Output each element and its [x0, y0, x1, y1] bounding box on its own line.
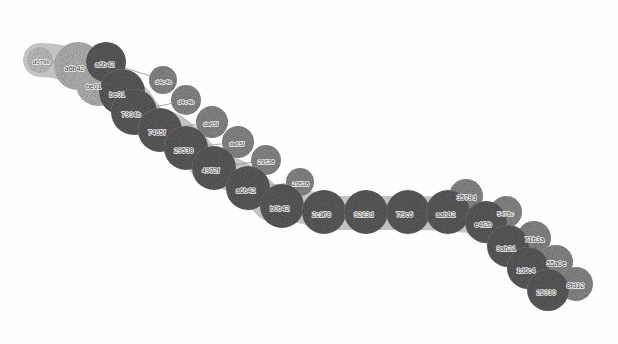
node-label: 7465f [148, 129, 166, 136]
node-label: a6b42 [236, 187, 256, 194]
node-label: 29538 [292, 181, 309, 187]
node-label: 71b3a [525, 236, 545, 243]
node-label: 29538 [174, 147, 194, 154]
node-label: be01 [109, 91, 125, 98]
node-label: 3579d [457, 194, 477, 201]
graph-canvas: d079ba6b42a6b42be01be017904bd4c4bd4c4b74… [0, 0, 618, 344]
node-label: 4972f [202, 167, 220, 174]
node-label: 29538 [258, 159, 275, 165]
node-label: 2c178 [312, 211, 331, 218]
node-label: da65f [229, 141, 244, 147]
node-label: a6b42 [65, 65, 85, 72]
node-label: da65f [203, 121, 218, 127]
node-label: 7f9c6 [396, 211, 413, 218]
node-label: 7904b [121, 111, 141, 118]
nodes-layer[interactable] [27, 42, 593, 311]
node-label: a6b42 [95, 61, 115, 68]
node-label: be01 [86, 83, 102, 90]
node-label: b0b42 [270, 205, 290, 212]
node-label: aab82 [436, 211, 456, 218]
node-label: d4c4b [155, 79, 172, 85]
node-label: 8fd12 [567, 282, 585, 289]
node-label: e4f2b [474, 221, 492, 228]
node-label: 26030 [536, 289, 556, 296]
node-label: d4c4b [178, 99, 195, 105]
node-label: 5478c [497, 211, 513, 217]
node-label: d079b [33, 59, 50, 65]
chain-graph-svg[interactable]: d079ba6b42a6b42be01be017904bd4c4bd4c4b74… [0, 0, 618, 344]
node-label: 55a0e [547, 260, 567, 267]
node-label: 1d6c4 [516, 267, 535, 274]
node-label: 9ab21 [496, 245, 516, 252]
node-label: 9213d [354, 211, 374, 218]
